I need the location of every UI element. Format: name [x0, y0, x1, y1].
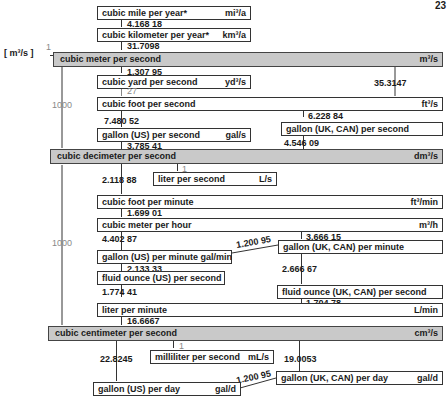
line — [121, 20, 122, 27]
factor-yd3s-ft3s: 27 — [127, 86, 137, 96]
line — [121, 42, 122, 50]
factor-km3a-m3s: 31.7098 — [127, 41, 160, 51]
unit-box-cubic-centimeter-per-second: cubic centimeter per second cm³/s — [48, 326, 443, 341]
factor-galUKmin-flozUK: 2.666 67 — [282, 264, 317, 274]
factor-Lmin-cm3s: 16.6667 — [127, 316, 160, 326]
line — [121, 67, 122, 73]
line — [173, 341, 174, 348]
factor-galUK-dm3s: 4.546 09 — [284, 138, 319, 148]
unit-box-gallon-us-per-second: gallon (US) per second gal/s — [97, 128, 251, 142]
line — [301, 232, 302, 239]
line — [121, 317, 122, 325]
line — [303, 111, 304, 117]
unit-box-milliliter-per-second: milliliter per second mL/s — [150, 350, 274, 364]
factor-ft3min-m3h: 1.699 01 — [127, 208, 162, 218]
unit-box-gallon-us-per-day: gallon (US) per day gal/d — [93, 382, 241, 396]
line — [121, 264, 122, 271]
unit-box-gallon-us-per-minute: gallon (US) per minute gal/min — [97, 250, 232, 264]
unit-box-cubic-meter-per-second: cubic meter per second m³/s — [53, 52, 443, 67]
unit-box-cubic-foot-per-second: cubic foot per second ft³/s — [97, 97, 443, 111]
unit-box-cubic-kilometer-per-year: cubic kilometer per year* km³/a — [97, 28, 251, 42]
unit-box-gallon-uk-per-minute: gallon (UK, CAN) per minute — [278, 240, 443, 254]
unit-box-liter-per-minute: liter per minute L/min — [97, 303, 443, 317]
unit-box-fluid-ounce-us-per-second: fluid ounce (US) per second — [97, 271, 225, 285]
factor-cm3s-galUKd: 19.0053 — [284, 354, 317, 364]
factor-m3s-dm3s: 1000 — [52, 100, 72, 110]
base-unit-bracket: [ m³/s ] — [4, 48, 34, 58]
factor-m3h-galUSmin: 4.402 87 — [102, 234, 137, 244]
unit-box-cubic-foot-per-minute: cubic foot per minute ft³/min — [97, 195, 443, 209]
factor-flozUS-Lmin: 1.774 41 — [102, 287, 137, 297]
factor-m3s-ft3s: 35.3147 — [374, 78, 407, 88]
factor-cm3s-galUSd: 22.8245 — [100, 354, 133, 364]
line — [177, 164, 178, 171]
factor-ft3s-galUK: 6.228 84 — [308, 111, 343, 121]
unit-box-gallon-uk-per-second: gallon (UK, CAN) per second — [281, 122, 443, 136]
unit-box-gallon-uk-per-day: gallon (UK, CAN) per day gal/d — [276, 371, 443, 385]
unit-box-cubic-meter-per-hour: cubic meter per hour m³/h — [97, 218, 443, 232]
unit-box-cubic-decimeter-per-second: cubic decimeter per second dm³/s — [50, 149, 443, 164]
unit-box-cubic-mile-per-year: cubic mile per year* mi³/a — [97, 6, 251, 20]
unit-box-liter-per-second: liter per second L/s — [153, 172, 277, 186]
unit-box-cubic-yard-per-second: cubic yard per second yd³/s — [97, 75, 251, 89]
factor-base: 1 — [46, 42, 51, 52]
line — [121, 111, 122, 127]
factor-dm3s-ft3min: 2.118 88 — [102, 175, 137, 185]
line — [121, 89, 122, 96]
factor-dm3s-cm3s: 1000 — [52, 238, 72, 248]
base-unit: m³/s — [10, 48, 29, 58]
line — [121, 209, 122, 217]
line — [121, 142, 122, 149]
unit-box-fluid-ounce-uk-per-second: fluid ounce (UK, CAN) per second — [277, 285, 443, 299]
